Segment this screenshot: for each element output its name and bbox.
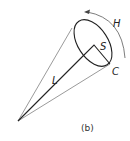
cone-diagram: H S L C (b) (0, 0, 130, 141)
label-L: L (52, 75, 58, 86)
label-S: S (100, 41, 107, 52)
arrowhead-icon (84, 10, 90, 15)
figure-caption: (b) (81, 123, 94, 133)
cone-edge-lower (18, 64, 110, 121)
label-H: H (113, 18, 121, 29)
axis-line-L (18, 57, 82, 121)
label-C: C (112, 66, 119, 77)
